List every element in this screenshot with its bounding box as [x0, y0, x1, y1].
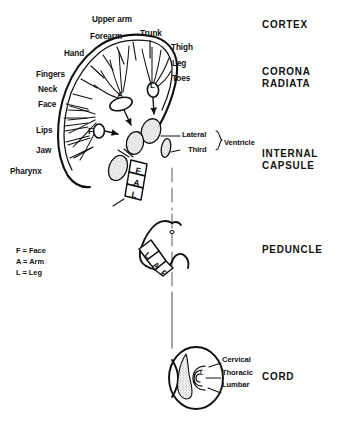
node-arm: A	[108, 90, 134, 125]
level-heading-corona-radiata: CORONA RADIATA	[262, 65, 311, 89]
level-peduncle-line1: PEDUNCLE	[262, 243, 323, 255]
key-leg: L = Leg	[16, 269, 46, 277]
label-lumbar: Lumbar	[222, 381, 253, 389]
aqueduct-marker	[170, 231, 174, 234]
key-arm: A = Arm	[16, 258, 46, 266]
leg-fiber-fan	[142, 47, 171, 88]
label-lateral-ventricle: Lateral	[182, 131, 206, 139]
label-thigh: Thigh	[171, 44, 193, 53]
label-hand: Hand	[64, 50, 84, 59]
label-face: Face	[38, 101, 56, 110]
label-toes: Toes	[172, 75, 190, 84]
node-face: F	[88, 124, 118, 138]
label-trunk: Trunk	[140, 30, 162, 39]
label-forearm: Forearm	[90, 33, 122, 42]
abbreviation-key: F = Face A = Arm L = Leg	[16, 247, 46, 280]
label-ventricle-group: Ventricle	[224, 139, 255, 147]
label-upper-arm: Upper arm	[92, 16, 132, 25]
level-corona-line2: RADIATA	[262, 77, 311, 89]
svg-text:L: L	[150, 81, 155, 90]
level-capsule-line2: CAPSULE	[262, 159, 318, 171]
ventricle-brace	[216, 131, 222, 150]
svg-text:A: A	[117, 90, 123, 100]
label-jaw: Jaw	[36, 147, 51, 156]
level-cord-line1: CORD	[262, 370, 294, 382]
label-cervical: Cervical	[222, 356, 253, 364]
label-leg: Leg	[172, 60, 186, 69]
level-cortex-line1: CORTEX	[262, 18, 308, 30]
cord-tract-label: L	[200, 370, 204, 376]
figure-canvas: A L F	[0, 0, 350, 426]
label-third-ventricle: Third	[188, 146, 206, 154]
label-fingers: Fingers	[36, 71, 65, 80]
node-leg: L	[146, 81, 159, 114]
level-heading-cortex: CORTEX	[262, 18, 308, 30]
level-corona-line1: CORONA	[262, 65, 311, 77]
level-capsule-line1: INTERNAL	[262, 147, 318, 159]
level-heading-peduncle: PEDUNCLE	[262, 243, 323, 255]
key-face: F = Face	[16, 247, 46, 255]
svg-text:L: L	[200, 370, 204, 376]
label-lips: Lips	[36, 127, 52, 136]
label-neck: Neck	[38, 86, 57, 95]
arm-fiber-fan	[94, 46, 129, 98]
cord-callouts: Cervical Thoracic Lumbar	[222, 356, 253, 394]
level-heading-cord: CORD	[262, 370, 294, 382]
label-thoracic: Thoracic	[222, 369, 253, 377]
label-pharynx: Pharynx	[10, 168, 42, 177]
level-heading-internal-capsule: INTERNAL CAPSULE	[262, 147, 318, 171]
svg-text:F: F	[88, 126, 93, 136]
